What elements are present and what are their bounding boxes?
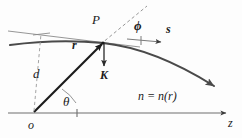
s-vector-arrow [127, 36, 161, 45]
label-unit-vector-s: s [166, 23, 171, 35]
label-vector-k: K [100, 69, 108, 81]
label-distance-d: d [33, 67, 40, 80]
point-P-marker [101, 41, 104, 44]
label-angle-phi: ϕ [134, 19, 142, 32]
ray-optics-figure: P ϕ s r K d θ n = n(r) o z [0, 0, 242, 138]
ray-curve [10, 41, 214, 86]
label-origin: o [28, 119, 34, 131]
label-axis-z: z [228, 117, 233, 129]
z-axis [8, 109, 226, 117]
label-position-vector-r: r [72, 39, 77, 51]
label-angle-theta: θ [63, 95, 69, 108]
label-index-relation: n = n(r) [138, 90, 177, 102]
label-point-p: P [92, 13, 100, 26]
